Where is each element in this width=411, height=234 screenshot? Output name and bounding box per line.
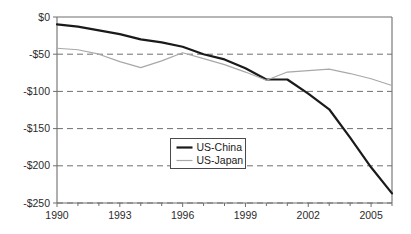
x-axis-label-2002: 2002	[297, 209, 321, 221]
x-axis-label-2005: 2005	[359, 209, 383, 221]
y-axis-label--250: -$250	[23, 197, 50, 209]
x-axis-label-1993: 1993	[108, 209, 132, 221]
x-axis-label-1996: 1996	[171, 209, 195, 221]
y-axis-label-0: $0	[38, 11, 50, 23]
chart-background	[0, 0, 411, 234]
x-axis-label-1990: 1990	[45, 209, 69, 221]
line-chart: $0-$50-$100-$150-$200-$250 1990199319961…	[0, 0, 411, 234]
chart-container: $0-$50-$100-$150-$200-$250 1990199319961…	[0, 0, 411, 234]
chart-legend[interactable]: US-ChinaUS-Japan	[171, 139, 246, 169]
x-axis-label-1999: 1999	[234, 209, 258, 221]
y-axis-label--150: -$150	[23, 122, 50, 134]
legend-label-us-japan: US-Japan	[197, 154, 244, 166]
y-axis-label--50: -$50	[29, 48, 50, 60]
y-axis-label--100: -$100	[23, 85, 50, 97]
y-axis-label--200: -$200	[23, 159, 50, 171]
legend-label-us-china: US-China	[197, 141, 243, 153]
